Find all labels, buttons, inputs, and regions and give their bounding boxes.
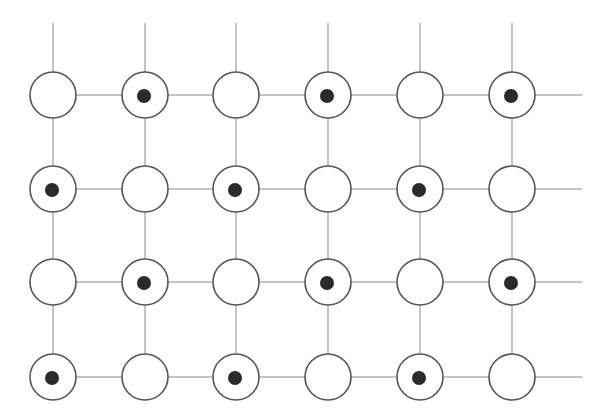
empty-site [213, 259, 259, 305]
site-circle [122, 166, 168, 212]
empty-site [30, 72, 76, 118]
occupied-site [122, 259, 168, 305]
occupied-site [30, 354, 76, 400]
site-circle [213, 259, 259, 305]
occupied-site [489, 72, 535, 118]
occupied-site [489, 259, 535, 305]
particle-dot [504, 89, 518, 103]
empty-site [305, 166, 351, 212]
site-circle [489, 354, 535, 400]
occupied-site [30, 166, 76, 212]
empty-site [397, 72, 443, 118]
particle-dot [137, 89, 151, 103]
site-circle [305, 354, 351, 400]
particle-dot [228, 183, 242, 197]
particle-dot [45, 183, 59, 197]
particle-dot [228, 371, 242, 385]
particle-dot [412, 183, 426, 197]
occupied-site [397, 166, 443, 212]
site-circle [30, 259, 76, 305]
empty-site [213, 72, 259, 118]
site-circle [305, 166, 351, 212]
empty-site [397, 259, 443, 305]
occupied-site [213, 354, 259, 400]
lattice-diagram [0, 0, 610, 419]
empty-site [122, 166, 168, 212]
empty-site [489, 166, 535, 212]
occupied-site [305, 259, 351, 305]
occupied-site [213, 166, 259, 212]
empty-site [122, 354, 168, 400]
occupied-site [122, 72, 168, 118]
particle-dot [412, 371, 426, 385]
grid-nodes [30, 72, 535, 400]
site-circle [397, 259, 443, 305]
occupied-site [305, 72, 351, 118]
particle-dot [320, 89, 334, 103]
particle-dot [137, 276, 151, 290]
empty-site [305, 354, 351, 400]
particle-dot [45, 371, 59, 385]
empty-site [489, 354, 535, 400]
particle-dot [504, 276, 518, 290]
site-circle [122, 354, 168, 400]
site-circle [397, 72, 443, 118]
site-circle [213, 72, 259, 118]
particle-dot [320, 276, 334, 290]
site-circle [30, 72, 76, 118]
occupied-site [397, 354, 443, 400]
site-circle [489, 166, 535, 212]
empty-site [30, 259, 76, 305]
